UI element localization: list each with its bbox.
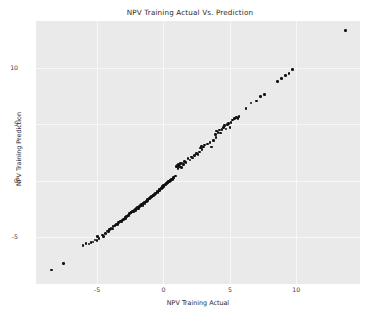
gridline-vertical	[230, 21, 231, 284]
scatter-point	[291, 68, 294, 71]
plot-panel	[36, 21, 360, 284]
scatter-point	[219, 132, 222, 135]
scatter-point	[197, 153, 200, 156]
scatter-point	[191, 157, 194, 160]
scatter-point	[185, 161, 188, 164]
scatter-point	[288, 72, 291, 75]
y-tick-label: 10	[0, 65, 18, 71]
scatter-point	[225, 128, 228, 131]
scatter-point	[180, 166, 183, 169]
scatter-point	[212, 139, 215, 142]
scatter-point	[85, 242, 88, 245]
gridline-horizontal	[36, 237, 360, 238]
scatter-point	[280, 77, 283, 80]
scatter-point	[250, 102, 253, 105]
scatter-point	[221, 128, 224, 131]
scatter-point	[210, 146, 213, 149]
scatter-point	[62, 262, 65, 265]
gridline-horizontal	[36, 181, 360, 182]
x-tick-label: 0	[148, 287, 178, 293]
scatter-point	[98, 237, 101, 240]
scatter-point	[245, 107, 248, 110]
x-axis-label: NPV Training Actual	[36, 299, 360, 307]
scatter-point	[201, 148, 204, 151]
gridline-horizontal	[36, 68, 360, 69]
scatter-point	[255, 100, 258, 103]
scatter-point	[198, 151, 201, 154]
chart-title: NPV Training Actual Vs. Prediction	[0, 8, 380, 17]
gridline-vertical	[163, 21, 164, 284]
scatter-point	[82, 244, 85, 247]
gridline-vertical	[97, 21, 98, 284]
scatter-point	[111, 228, 114, 231]
chart-figure: NPV Training Actual Vs. Prediction -5051…	[0, 0, 380, 316]
scatter-point	[96, 235, 99, 238]
y-tick-label: -5	[0, 234, 18, 240]
scatter-point	[50, 269, 53, 272]
y-axis-label: NPV Training Prediction	[15, 79, 23, 219]
scatter-point	[344, 29, 347, 32]
gridline-vertical	[296, 21, 297, 284]
scatter-point	[215, 136, 218, 139]
x-tick-label: 5	[215, 287, 245, 293]
scatter-point	[209, 141, 212, 144]
scatter-point	[238, 115, 241, 118]
x-tick-label: -5	[82, 287, 112, 293]
scatter-point	[107, 230, 110, 233]
scatter-point	[276, 80, 279, 83]
scatter-point	[263, 93, 266, 96]
scatter-point	[284, 74, 287, 77]
scatter-point	[259, 95, 262, 98]
x-tick-label: 10	[281, 287, 311, 293]
gridline-horizontal	[36, 124, 360, 125]
